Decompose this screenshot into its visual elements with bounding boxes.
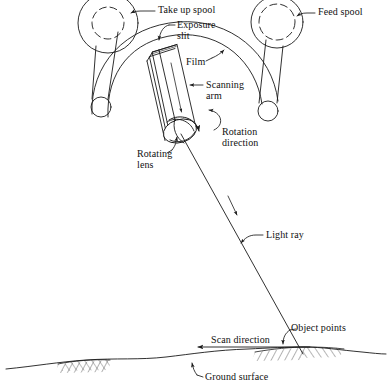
label-scanning-arm-line1: Scanning: [206, 79, 244, 90]
label-light-ray: Light ray: [266, 229, 304, 240]
figure-canvas: Take up spool Feed spool Exposure slit F…: [0, 0, 388, 386]
label-film: Film: [186, 56, 205, 67]
label-exposure-slit-line2: slit: [177, 30, 190, 41]
label-rotation-direction-line1: Rotation: [222, 126, 257, 137]
feed-spool: [251, 0, 303, 48]
light-ray: [181, 134, 303, 354]
label-exposure-slit-line1: Exposure: [177, 19, 216, 30]
take-up-spool: [78, 0, 138, 53]
ground-hatch-left: [56, 359, 112, 373]
label-feed-spool: Feed spool: [318, 6, 363, 17]
label-scanning-arm-line2: arm: [206, 90, 222, 101]
label-rotating-lens-line2: lens: [137, 159, 154, 170]
label-object-points: Object points: [291, 322, 346, 333]
label-scan-direction: Scan direction: [211, 334, 270, 345]
label-rotation-direction-line2: direction: [222, 137, 258, 148]
label-ground-surface: Ground surface: [205, 371, 268, 382]
object-points-hatch: [252, 347, 344, 361]
feed-spool-arm: [258, 40, 283, 121]
label-take-up-spool: Take up spool: [158, 4, 215, 15]
take-up-spool-arm: [91, 32, 118, 117]
label-rotating-lens-line1: Rotating: [137, 148, 172, 159]
